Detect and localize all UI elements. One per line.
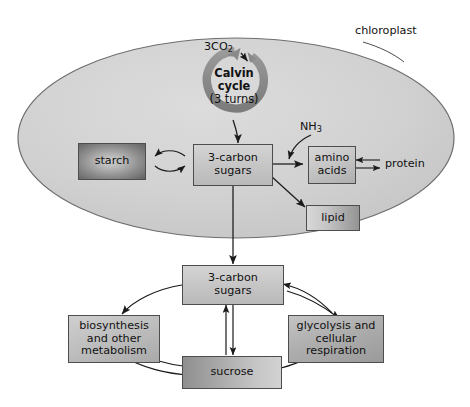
box-sucrose: sucrose — [182, 356, 282, 389]
co2-subscript: 2 — [228, 44, 233, 54]
box-glycolysis: glycolysis and cellular respiration — [288, 315, 384, 363]
box-cytosol-3-carbon-sugars: 3-carbon sugars — [182, 265, 284, 305]
arrow-sugars-to-glycolysis — [287, 291, 339, 318]
co2-input-label: 3CO2 — [204, 40, 233, 54]
calvin-cycle-label: Calvin cycle (3 turns) — [201, 67, 267, 106]
calvin-turns: (3 turns) — [201, 93, 267, 106]
box-starch: starch — [78, 143, 146, 180]
diagram-canvas: chloroplast 3CO2 Calvin cycle (3 turns) … — [0, 0, 470, 407]
nh3-label: NH3 — [300, 120, 322, 134]
nh3-text: NH — [300, 120, 317, 133]
protein-label: protein — [385, 157, 425, 170]
box-biosynthesis: biosynthesis and other metabolism — [68, 315, 160, 363]
chloroplast-label: chloroplast — [355, 24, 417, 37]
box-lipid: lipid — [306, 205, 360, 231]
co2-text: 3CO — [204, 40, 228, 53]
box-chloroplast-3-carbon-sugars: 3-carbon sugars — [193, 144, 273, 186]
box-amino-acids: amino acids — [308, 146, 356, 184]
arrow-sugars-to-biosynthesis — [122, 285, 182, 314]
nh3-subscript: 3 — [317, 124, 322, 134]
